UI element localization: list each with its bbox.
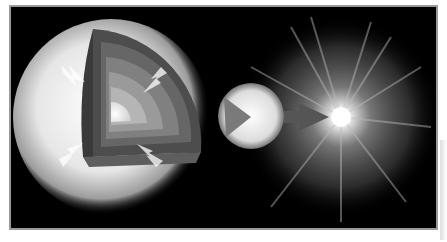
supernova-diagram: [11, 7, 436, 228]
star-cutaway: [13, 19, 209, 215]
page-edge: [440, 140, 447, 240]
illustration-frame: [9, 5, 438, 230]
collapsed-core: [218, 83, 284, 149]
